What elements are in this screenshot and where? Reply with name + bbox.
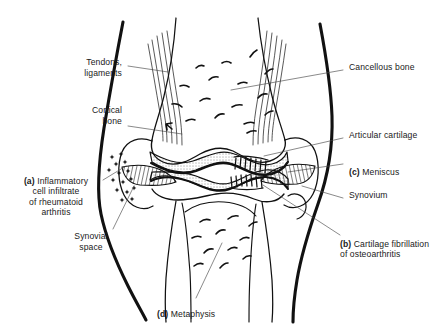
label-metaphysis: (d) Metaphysis [157,298,253,319]
label-cortical-bone: Cortical bone [48,105,122,126]
tibial-cancellous-edge [185,202,256,216]
label-marker-b: (b) [340,239,351,249]
leader-fibrill [263,185,340,235]
label-marker-a: (a) [24,176,35,186]
label-inflammatory-text: Inflammatory cell infiltrate of rheumato… [29,176,88,218]
label-cartilage-fibrillation: (b) Cartilage fibrillation of osteoarthr… [340,228,448,260]
label-fibrillation-text: Cartilage fibrillation of osteoarthritis [340,239,429,260]
label-tendons-ligaments: Tendons, ligaments [48,57,122,78]
patellar-tendon-left [148,31,182,145]
label-metaphysis-text: Metaphysis [168,309,215,319]
label-marker-d: (d) [157,309,168,319]
leader-metaphysis [196,243,222,298]
cancellous-trabeculae-femur [166,50,273,133]
label-cancellous-bone: Cancellous bone [349,62,447,73]
leader-cancellous [231,70,343,90]
figure-canvas: Tendons, ligaments Cortical bone (a) Inf… [0,0,448,328]
tibia-shaft-right [262,202,273,322]
label-inflammatory-infiltrate: (a) Inflammatory cell infiltrate of rheu… [4,165,108,218]
cancellous-trabeculae-tibia [192,216,257,268]
label-meniscus: (c) Meniscus [349,156,447,177]
label-synovium: Synovium [349,190,447,201]
label-articular-cartilage: Articular cartilage [349,130,447,141]
label-synovial-space: Synovial space [60,231,122,252]
label-marker-c: (c) [349,167,360,177]
label-meniscus-text: Meniscus [360,167,400,177]
fibula-head [288,194,306,219]
